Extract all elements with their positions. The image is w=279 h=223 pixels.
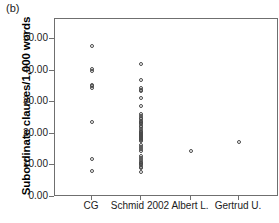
y-tick-label: 50.00 (0, 32, 54, 44)
figure-root: (b) Subordinate clauses/1,000 words 0.00… (0, 0, 279, 223)
data-point (139, 149, 143, 153)
data-point (139, 96, 143, 100)
data-point (90, 44, 94, 48)
x-tick-mark (91, 196, 92, 200)
data-point (139, 170, 143, 174)
y-tick-label: 10.00 (0, 158, 54, 170)
x-tick-label-cg: CG (84, 200, 99, 211)
y-tick-label: 0.00 (0, 190, 54, 202)
y-tick-label: 20.00 (0, 127, 54, 139)
data-point (139, 166, 143, 170)
data-point (90, 69, 94, 73)
data-point (139, 78, 143, 82)
data-point (237, 140, 241, 144)
x-tick-label-albert-l: Albert L. (171, 200, 208, 211)
y-tick-label: 30.00 (0, 95, 54, 107)
x-tick-mark (140, 196, 141, 200)
data-point (90, 120, 94, 124)
y-tick-label: 40.00 (0, 64, 54, 76)
x-tick-mark (190, 196, 191, 200)
data-point (90, 86, 94, 90)
plot-area (54, 18, 278, 196)
data-point (189, 149, 193, 153)
data-point (139, 104, 143, 108)
data-point (139, 62, 143, 66)
y-tick-mark (49, 196, 54, 197)
x-tick-label-gertrud-u: Gertrud U. (215, 200, 262, 211)
data-point (139, 89, 143, 93)
data-point (90, 157, 94, 161)
data-point (90, 169, 94, 173)
x-tick-mark (238, 196, 239, 200)
panel-label: (b) (6, 2, 19, 14)
x-tick-label-schmid-2002: Schmid 2002 (111, 200, 169, 211)
